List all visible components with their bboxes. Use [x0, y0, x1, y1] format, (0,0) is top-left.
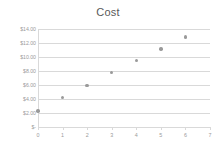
gridline-horizontal	[38, 113, 210, 114]
data-point	[110, 71, 113, 74]
gridline-horizontal	[38, 71, 210, 72]
gridline-horizontal	[38, 85, 210, 86]
x-axis-tick-mark	[112, 127, 113, 130]
x-axis-tick-mark	[210, 127, 211, 130]
y-axis-tick-label: $2.00	[2, 110, 36, 116]
y-axis-tick-label: $6.00	[2, 82, 36, 88]
chart-title: Cost	[0, 6, 216, 18]
y-axis-tick-label: $10.00	[2, 54, 36, 60]
data-point	[184, 35, 187, 38]
x-axis-tick-label: 0	[31, 132, 45, 138]
x-axis-tick-mark	[161, 127, 162, 130]
data-point	[36, 109, 39, 112]
gridline-horizontal	[38, 57, 210, 58]
x-axis-tick-mark	[63, 127, 64, 130]
x-axis-tick-mark	[38, 127, 39, 130]
y-axis-tick-label: $-	[2, 124, 36, 130]
x-axis-tick-mark	[87, 127, 88, 130]
x-axis-tick-label: 5	[154, 132, 168, 138]
plot-area	[38, 29, 210, 127]
x-axis-tick-mark	[136, 127, 137, 130]
x-axis-tick-label: 2	[80, 132, 94, 138]
x-axis-tick-label: 4	[129, 132, 143, 138]
y-axis-tick-label: $4.00	[2, 96, 36, 102]
x-axis-line	[38, 127, 210, 128]
gridline-horizontal	[38, 99, 210, 100]
gridline-horizontal	[38, 43, 210, 44]
gridline-horizontal	[38, 29, 210, 30]
x-axis-tick-label: 3	[105, 132, 119, 138]
y-axis-tick-label: $14.00	[2, 26, 36, 32]
chart-container: Cost $-$2.00$4.00$6.00$8.00$10.00$12.00$…	[0, 0, 216, 150]
x-axis-tick-label: 6	[178, 132, 192, 138]
data-point	[159, 47, 162, 50]
y-axis-tick-label: $12.00	[2, 40, 36, 46]
y-axis-tick-label: $8.00	[2, 68, 36, 74]
x-axis-tick-mark	[185, 127, 186, 130]
data-point	[135, 59, 138, 62]
x-axis-tick-label: 7	[203, 132, 216, 138]
data-point	[85, 84, 88, 87]
x-axis-tick-label: 1	[56, 132, 70, 138]
